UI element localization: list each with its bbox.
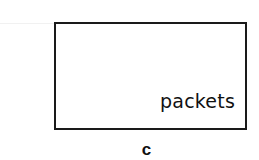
diagram-canvas: packets c [0,0,259,160]
faint-divider [0,23,54,24]
panel-caption: c [0,140,259,160]
packets-box: packets [54,22,247,130]
box-label: packets [160,90,235,112]
